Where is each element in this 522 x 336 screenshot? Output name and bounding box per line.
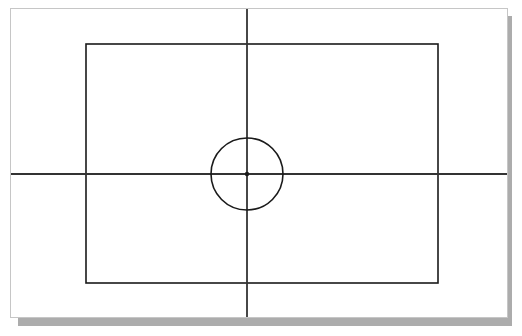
diagram-canvas [0, 0, 522, 336]
outer-frame [10, 8, 508, 318]
